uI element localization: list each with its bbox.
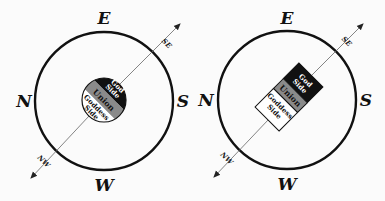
left-label-nw: NW [35, 152, 53, 170]
left-label-n: N [15, 91, 33, 111]
right-label-e: E [280, 8, 295, 28]
right-diagram: E W N S SE NW God Side Union Goddess Sid… [197, 8, 372, 194]
right-label-nw: NW [218, 149, 236, 167]
left-label-e: E [97, 8, 112, 28]
right-label-se: SE [340, 34, 354, 48]
left-diagram: E W N S SE NW God Side Union Goddess Sid… [15, 8, 189, 195]
right-label-n: N [197, 90, 215, 110]
right-label-w: W [277, 174, 298, 194]
right-label-s: S [360, 90, 372, 110]
orientation-diagrams: E W N S SE NW God Side Union Goddess Sid… [0, 0, 385, 201]
left-label-se: SE [160, 36, 174, 50]
left-label-s: S [177, 91, 189, 111]
left-label-w: W [94, 175, 115, 195]
